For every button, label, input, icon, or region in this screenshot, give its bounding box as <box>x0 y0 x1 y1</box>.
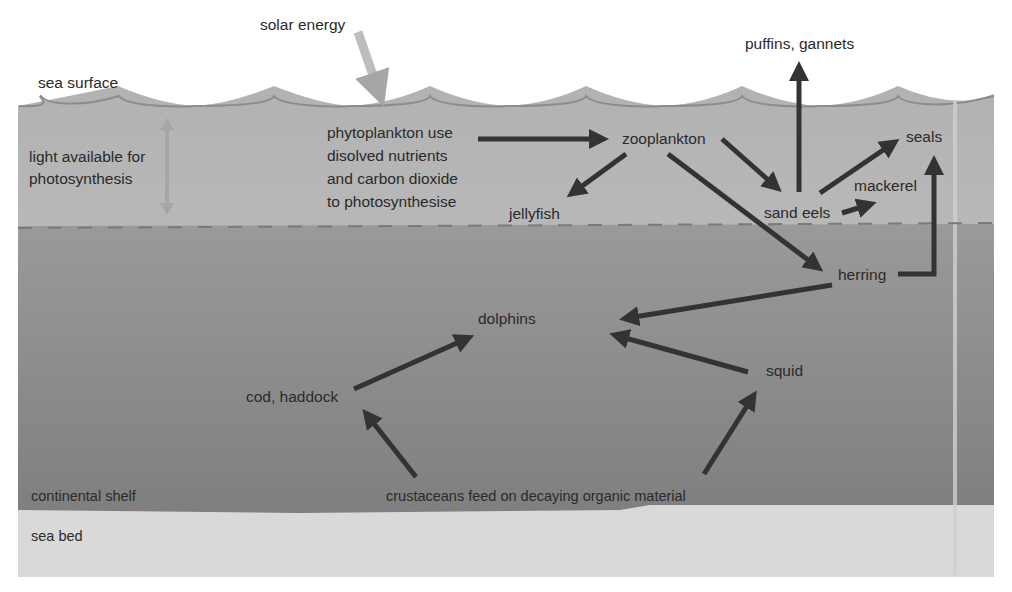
sea-bed-label: sea bed <box>31 528 83 544</box>
solar-energy-arrow <box>358 32 378 90</box>
solar-energy-label: solar energy <box>260 16 346 33</box>
squid-label: squid <box>766 362 803 379</box>
dolphins-label: dolphins <box>478 310 536 327</box>
sea-surface-label: sea surface <box>38 74 118 91</box>
mackerel-label: mackerel <box>854 177 917 194</box>
seals-label: seals <box>906 128 942 145</box>
cod-haddock-label: cod, haddock <box>246 388 338 405</box>
jellyfish-label: jellyfish <box>508 205 560 222</box>
puffins-gannets-label: puffins, gannets <box>745 35 854 52</box>
light-stripe <box>953 100 957 575</box>
crustaceans-label: crustaceans feed on decaying organic mat… <box>386 488 686 504</box>
zooplankton-label: zooplankton <box>622 130 706 147</box>
marine-food-web-diagram: solar energy sea surface light available… <box>0 0 1012 592</box>
sea-bed-layer <box>18 505 994 577</box>
continental-shelf-label: continental shelf <box>31 488 137 504</box>
sand-eels-label: sand eels <box>764 204 831 221</box>
herring-label: herring <box>838 266 886 283</box>
